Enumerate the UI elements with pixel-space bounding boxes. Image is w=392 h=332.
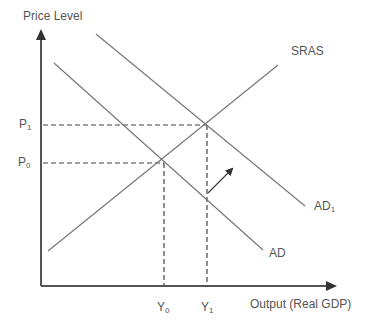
ad-curve <box>54 63 263 250</box>
shift-arrow <box>208 169 232 193</box>
x-axis-arrow-icon <box>326 281 337 291</box>
ad-as-diagram <box>0 0 392 332</box>
sras-curve <box>48 65 278 251</box>
y-axis-arrow-icon <box>36 29 46 40</box>
x-axis-label: Output (Real GDP) <box>250 298 351 310</box>
y1-label: Y1 <box>201 301 213 315</box>
y-axis-label: Price Level <box>23 10 82 22</box>
ad1-curve <box>96 34 305 206</box>
p1-label: P1 <box>19 118 31 132</box>
sras-label: SRAS <box>291 45 324 57</box>
ad-label: AD <box>269 247 286 259</box>
y0-label: Y0 <box>157 301 169 315</box>
ad1-label: AD1 <box>314 200 335 214</box>
p0-label: P0 <box>18 156 30 170</box>
